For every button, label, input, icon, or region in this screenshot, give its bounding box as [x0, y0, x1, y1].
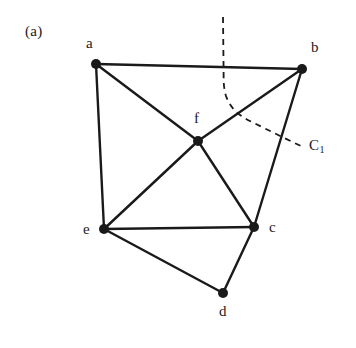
vertex-d [218, 288, 228, 298]
edge-a-f [96, 64, 198, 141]
vertex-label-b: b [311, 40, 319, 55]
edge-b-f [198, 69, 302, 141]
edge-e-c [104, 227, 254, 229]
vertex-label-d: d [219, 304, 227, 319]
edge-e-d [104, 229, 223, 293]
panel-label: (a) [25, 24, 43, 39]
edge-c-d [223, 227, 254, 293]
vertex-label-c: c [269, 220, 276, 235]
cut-curve-c1-path [223, 17, 303, 147]
graph-vertices [91, 59, 307, 298]
vertex-a [91, 59, 101, 69]
vertex-c [249, 222, 259, 232]
cut-curve-label: C1 [309, 138, 324, 153]
figure-panel-a: (a) a b c d e f C1 [0, 0, 356, 348]
vertex-f [193, 136, 203, 146]
graph-edges [96, 64, 302, 293]
vertex-label-a: a [86, 36, 93, 51]
edge-f-c [198, 141, 254, 227]
vertex-b [297, 64, 307, 74]
edge-f-e [104, 141, 198, 229]
vertex-label-e: e [83, 222, 90, 237]
vertex-e [99, 224, 109, 234]
cut-curve-label-base: C [309, 137, 319, 153]
edge-a-b [96, 64, 302, 69]
graph-drawing [0, 0, 356, 348]
vertex-label-f: f [194, 111, 199, 126]
edge-b-c [254, 69, 302, 227]
cut-curve-c1 [223, 17, 303, 147]
edge-a-e [96, 64, 104, 229]
cut-curve-label-subscript: 1 [320, 144, 325, 155]
